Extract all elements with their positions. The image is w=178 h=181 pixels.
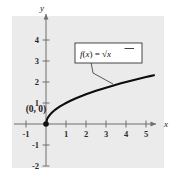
callout-fx-text: f(x) = √x — [80, 49, 111, 59]
callout-leader-line — [91, 62, 113, 84]
y-tick-label-4: 4 — [35, 35, 40, 45]
x-tick-label-4: 4 — [124, 129, 129, 139]
y-tick-label-neg1: -1 — [32, 140, 39, 150]
y-tick-label-neg2: -2 — [32, 161, 39, 171]
x-tick-label-3: 3 — [104, 129, 108, 139]
chart-svg: -1 1 2 3 4 5 -2 -1 1 2 3 4 x y (0, 0) f(… — [0, 0, 178, 181]
function-curve — [46, 75, 154, 124]
origin-point-marker — [43, 121, 49, 127]
x-axis — [14, 122, 156, 127]
y-tick-label-2: 2 — [35, 77, 39, 87]
origin-point-label: (0, 0) — [26, 104, 47, 115]
y-axis — [44, 14, 49, 166]
x-tick-label-1: 1 — [64, 129, 68, 139]
x-tick-label-neg1: -1 — [22, 129, 29, 139]
y-tick-label-3: 3 — [35, 56, 39, 66]
x-tick-label-2: 2 — [84, 129, 88, 139]
figure-container: -1 1 2 3 4 5 -2 -1 1 2 3 4 x y (0, 0) f(… — [0, 0, 178, 181]
x-tick-label-5: 5 — [144, 129, 148, 139]
x-axis-label: x — [163, 119, 168, 129]
y-axis-label: y — [39, 3, 44, 13]
